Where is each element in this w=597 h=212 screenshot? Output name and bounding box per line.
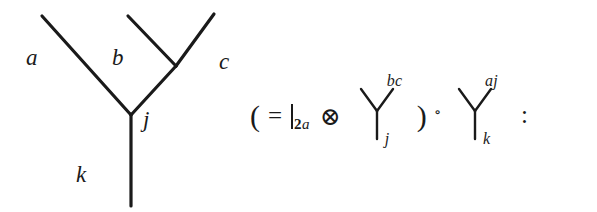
trailing-colon: : [521, 102, 528, 127]
vertex-glyph-aj-k: aj k [451, 73, 513, 157]
close-paren: ) [417, 101, 427, 131]
edge-label-j: j [143, 108, 149, 131]
y-vertex-icon [355, 87, 401, 143]
identity-morphism: 2a [291, 102, 309, 129]
vertex-subscript-j: j [385, 131, 390, 147]
vertex-subscript-k: k [483, 131, 490, 147]
vertex-superscript-bc: bc [387, 73, 403, 89]
edge-j [131, 66, 176, 115]
formula-expression: ( = 2a ⊗ bc j ) ∘ aj k : [250, 60, 597, 170]
edge-c [176, 14, 214, 66]
edge-b [128, 16, 176, 66]
composition-icon: ∘ [434, 105, 441, 120]
figure-canvas: a b c j k ( = 2a ⊗ bc j ) ∘ [0, 0, 597, 212]
identity-bar-icon [291, 104, 293, 129]
identity-subscript-number: 2 [294, 116, 302, 132]
edge-label-a: a [26, 46, 38, 69]
y-vertex-icon [453, 87, 499, 143]
edge-label-b: b [112, 46, 124, 69]
vertex-superscript-aj: aj [485, 73, 498, 89]
tree-diagram-svg [0, 0, 250, 212]
vertex-glyph-bc-j: bc j [353, 73, 415, 157]
equals-sign: = [268, 103, 282, 128]
edge-label-c: c [219, 50, 229, 73]
tree-diagram: a b c j k [0, 0, 250, 212]
identity-subscript: 2a [294, 116, 310, 132]
open-paren: ( [250, 101, 260, 131]
identity-subscript-letter: a [302, 116, 310, 132]
edge-label-k: k [76, 163, 86, 186]
tensor-product-icon: ⊗ [320, 104, 341, 129]
